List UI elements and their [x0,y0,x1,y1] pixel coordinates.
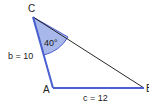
vertex-label-a: A [43,84,50,95]
side-c-label: c = 12 [83,93,108,103]
angle-c-label: 40° [44,38,58,48]
side-b-label: b = 10 [8,51,33,61]
vertex-label-c: C [28,3,35,14]
triangle-diagram: C A B 40° b = 10 c = 12 [0,0,149,103]
vertex-label-b: B [146,83,149,94]
